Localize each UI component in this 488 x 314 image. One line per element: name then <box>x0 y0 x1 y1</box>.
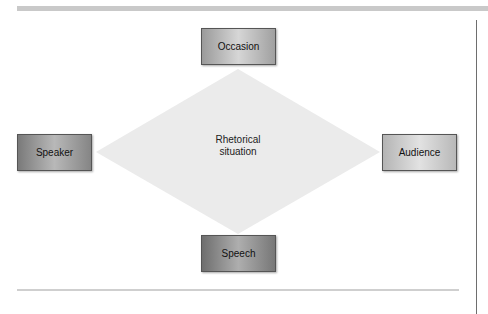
center-label-line2: situation <box>188 146 288 158</box>
node-audience-label: Audience <box>399 147 441 158</box>
center-label: Rhetorical situation <box>188 134 288 158</box>
node-speech: Speech <box>201 235 276 272</box>
node-audience: Audience <box>382 134 457 171</box>
node-speaker-label: Speaker <box>36 147 73 158</box>
node-speaker: Speaker <box>17 134 92 171</box>
node-occasion: Occasion <box>201 28 276 65</box>
node-occasion-label: Occasion <box>218 41 260 52</box>
node-speech-label: Speech <box>222 248 256 259</box>
center-label-line1: Rhetorical <box>188 134 288 146</box>
bottom-divider-rule <box>17 289 459 291</box>
